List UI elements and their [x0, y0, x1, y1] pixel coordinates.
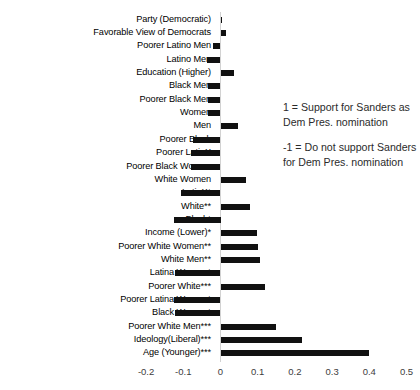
bar	[221, 257, 260, 263]
x-tick-label: 0.3	[325, 366, 338, 378]
bar	[175, 270, 220, 276]
annotation-spacer	[283, 129, 418, 140]
coefficient-bar-chart: Party (Democratic)Favorable View of Demo…	[0, 0, 420, 390]
bar	[174, 217, 221, 223]
x-tick-label: 0.2	[288, 366, 301, 378]
bar	[221, 204, 250, 210]
bar	[191, 150, 220, 156]
annotation-negative: -1 = Do not support Sanders for Dem Pres…	[283, 140, 418, 169]
bar	[221, 177, 246, 183]
annotation-block: 1 = Support for Sanders as Dem Pres. nom…	[283, 100, 418, 169]
x-tick-label: -0.1	[175, 366, 191, 378]
bar	[208, 110, 220, 116]
bar	[191, 164, 220, 170]
bar	[175, 310, 221, 316]
bar	[174, 297, 221, 303]
bar	[213, 43, 221, 49]
bar	[181, 190, 221, 196]
bar	[221, 123, 238, 129]
x-axis: -0.2-0.100.10.20.30.40.5	[0, 366, 420, 386]
x-tick-label: 0.4	[363, 366, 376, 378]
bar	[221, 70, 234, 76]
bar	[221, 230, 258, 236]
x-tick-label: 0	[218, 366, 223, 378]
bar	[221, 337, 302, 343]
bar	[207, 57, 221, 63]
bar	[221, 30, 226, 36]
bar	[221, 350, 370, 356]
x-tick-label: -0.2	[138, 366, 154, 378]
bar	[221, 324, 276, 330]
bar	[208, 97, 221, 103]
annotation-positive: 1 = Support for Sanders as Dem Pres. nom…	[283, 100, 418, 129]
bar	[221, 284, 265, 290]
x-tick-label: 0.5	[400, 366, 413, 378]
bar	[193, 137, 221, 143]
x-tick-label: 0.1	[251, 366, 264, 378]
plot-area	[0, 0, 420, 358]
bar	[221, 17, 222, 23]
bar	[208, 83, 220, 89]
bar	[221, 244, 258, 250]
